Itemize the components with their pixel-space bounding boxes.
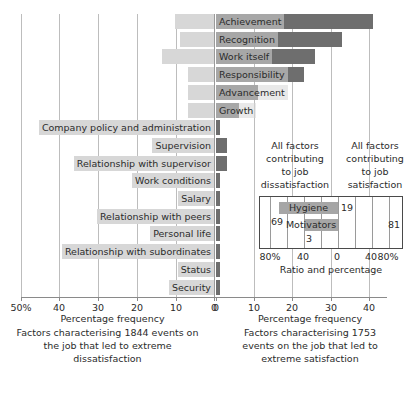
inset-heading-right-line-1: All factors (336, 140, 412, 152)
inset-gridline-right-40 (372, 197, 373, 248)
row-label: Responsibility (216, 67, 288, 82)
inset-heading-right-line-2: contributing (336, 153, 412, 165)
inset-ratio-chart: All factors contributing to job dissatis… (0, 0, 412, 394)
inset-value-motivators-right: 81 (388, 219, 400, 230)
inset-tick-4: 80% (373, 251, 403, 262)
inset-frame: Hygiene 69 19 Motivators 3 81 (259, 196, 403, 249)
herzberg-two-factor-chart: AchievementRecognitionWork itselfRespons… (0, 0, 412, 394)
inset-heading-right-line-4: satisfaction (334, 179, 412, 191)
inset-gridline-zero (338, 197, 339, 248)
inset-tick-2: 0 (322, 251, 352, 262)
inset-value-hygiene-right: 19 (341, 202, 353, 213)
row-label: Recognition (216, 32, 278, 47)
inset-heading-left-line-2: contributing (256, 153, 334, 165)
inset-heading-left-line-4: dissatisfaction (252, 179, 338, 191)
inset-axis-title: Ratio and percentage (259, 264, 403, 275)
inset-heading-left-line-1: All factors (256, 140, 334, 152)
row-label: Achievement (216, 14, 284, 29)
inset-heading-left-line-3: to job (256, 166, 334, 178)
inset-value-hygiene-left: 69 (271, 216, 283, 227)
row-label: Work itself (216, 49, 272, 64)
inset-value-motivators-left: 3 (306, 233, 312, 244)
inset-bar-hygiene-label: Hygiene (279, 202, 338, 214)
row-label: Advancement (216, 85, 288, 100)
inset-heading-right-line-3: to job (336, 166, 412, 178)
inset-tick-0: 80% (255, 251, 285, 262)
inset-gridline-right-20 (355, 197, 356, 248)
inset-bar-motivators-label: Motivators (284, 219, 338, 231)
inset-tick-1: 40 (288, 251, 318, 262)
row-label: Growth (216, 103, 256, 118)
